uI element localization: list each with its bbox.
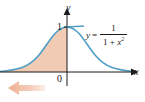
shaded-area-under-curve — [0, 27, 67, 72]
denominator-plus: + — [110, 37, 115, 47]
equation-leader-line — [67, 26, 84, 27]
denominator-exponent: 2 — [121, 36, 124, 42]
fraction-denominator: 1 + x2 — [100, 35, 127, 47]
function-equation-label: y = 1 1 + x2 — [86, 24, 127, 47]
graph-figure: y x 1 0 y = 1 1 + x2 — [0, 0, 145, 102]
y-tick-label-one: 1 — [57, 22, 62, 32]
equation-equals-sign: = — [92, 31, 97, 40]
equation-lhs: y — [86, 31, 90, 40]
denominator-one: 1 — [103, 37, 108, 47]
x-axis-label: x — [134, 67, 138, 77]
origin-label-zero: 0 — [57, 74, 62, 84]
equation-fraction: 1 1 + x2 — [100, 24, 127, 47]
fraction-numerator: 1 — [108, 24, 119, 34]
leftward-direction-arrow — [8, 81, 45, 95]
plot-canvas — [0, 0, 145, 102]
y-axis-label: y — [66, 3, 70, 13]
